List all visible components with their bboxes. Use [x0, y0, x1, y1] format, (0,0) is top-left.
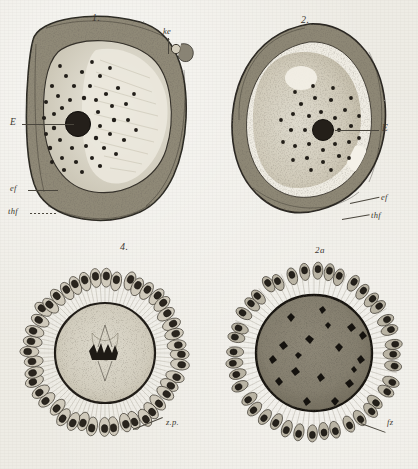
- panel-1-leader-thf: [30, 213, 58, 214]
- panel-1-leader-E: [22, 124, 74, 125]
- panel-2-illustration: [209, 0, 418, 240]
- panel-2a-label-fz: fz: [387, 417, 393, 427]
- panel-4-cell-layer: [0, 235, 209, 469]
- panel-1-label-ef: ef: [10, 183, 17, 193]
- panel-2-label-E: E: [382, 123, 388, 133]
- panel-2-leader-E: [335, 130, 379, 131]
- panel-2-fignum: 2.: [301, 14, 310, 25]
- panel-2-label-ef: ef: [381, 192, 388, 202]
- panel-1-label-E: E: [10, 117, 16, 127]
- panel-2-label-thf: thf: [371, 210, 381, 220]
- panel-4: 4.: [0, 235, 209, 469]
- panel-2a: 2a: [209, 235, 418, 469]
- panel-1-fignum: 1.: [92, 12, 101, 23]
- panel-2a-cell-layer: [209, 235, 418, 469]
- panel-1-label-thf: thf: [8, 206, 18, 216]
- panel-1-leader-ke: [168, 38, 169, 54]
- panel-2-nucleus: [313, 120, 334, 141]
- panel-1-label-ke: ke: [163, 26, 171, 36]
- panel-4-label-zp: z.p.: [166, 417, 179, 427]
- panel-1: 1.: [0, 0, 209, 235]
- panel-1-leader-ef: [28, 190, 58, 191]
- panel-2: 2.: [209, 0, 418, 240]
- panel-1-illustration: [0, 0, 209, 235]
